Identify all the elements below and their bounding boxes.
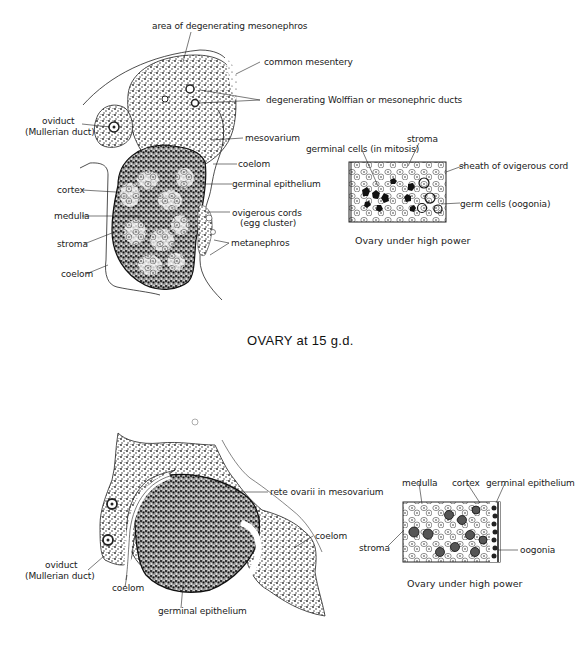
label-rete-ovarii: rete ovarii in mesovarium [270, 487, 383, 497]
label-coelom-bottom-left: coelom [112, 583, 144, 593]
label-common-mesentery: common mesentery [264, 57, 353, 67]
top-ovary-section [80, 32, 465, 300]
caption-top-inset: Ovary under high power [355, 235, 470, 246]
label-mullerian-duct-bottom: (Mullerian duct) [25, 571, 95, 581]
label-area-degenerating-mesonephros: area of degenerating mesonephros [152, 21, 307, 31]
label-germinal-epithelium-top: germinal epithelium [232, 179, 321, 189]
top-inset-drawing [349, 143, 465, 222]
label-germinal-epithelium-bottom: germinal epithelium [158, 606, 247, 616]
label-oviduct-bottom: oviduct [45, 560, 78, 570]
label-wolffian-ducts: degenerating Wolffian or mesonephric duc… [266, 95, 462, 105]
label-coelom-top-left: coelom [61, 269, 93, 279]
label-stroma-inset-bottom: stroma [359, 543, 390, 553]
label-coelom-top-right: coelom [238, 159, 270, 169]
label-germinal-cells-mitosis: germinal cells (in mitosis) [306, 144, 419, 154]
label-stroma-top: stroma [57, 239, 88, 249]
label-metanephros: metanephros [231, 238, 290, 248]
label-mesovarium: mesovarium [245, 133, 300, 143]
label-oogonia: oogonia [520, 545, 555, 555]
label-germ-cells-oogonia: germ cells (oogonia) [460, 199, 550, 209]
label-medulla-top: medulla [54, 211, 90, 221]
label-cortex-inset: cortex [452, 478, 480, 488]
label-egg-cluster: (egg cluster) [240, 218, 296, 228]
label-germinal-epithelium-inset: germinal epithelium [486, 478, 575, 488]
label-coelom-bottom-right: coelom [315, 531, 347, 541]
label-oviduct-top: oviduct [42, 116, 75, 126]
label-medulla-inset: medulla [402, 478, 438, 488]
label-ovigerous-cords: ovigerous cords [232, 208, 302, 218]
bottom-inset-drawing [388, 483, 518, 562]
label-sheath-ovigerous-cord: sheath of ovigerous cord [459, 161, 568, 171]
figure-title-ovary-15gd: OVARY at 15 g.d. [247, 333, 354, 348]
caption-bottom-inset: Ovary under high power [407, 578, 522, 589]
label-mullerian-duct-top: (Mullerian duct) [25, 127, 95, 137]
label-stroma-inset-top: stroma [407, 134, 438, 144]
label-cortex-top: cortex [57, 185, 85, 195]
